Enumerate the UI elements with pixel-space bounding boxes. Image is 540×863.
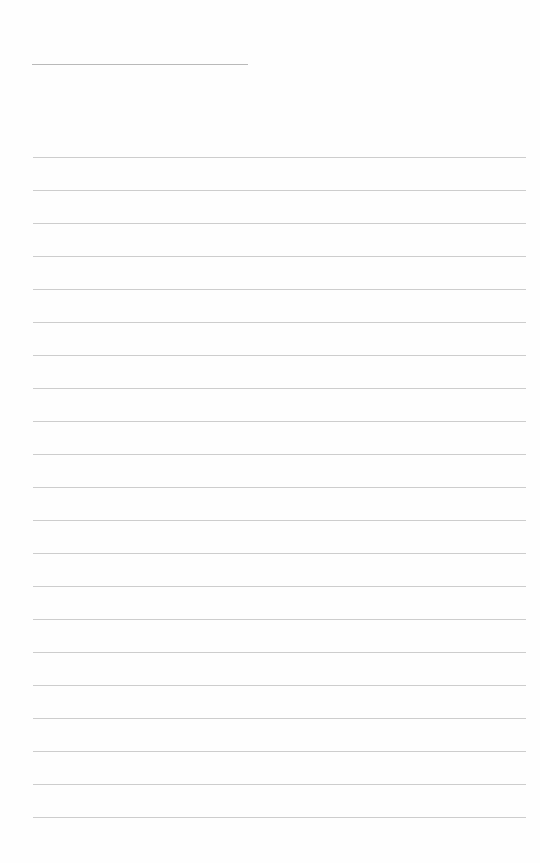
- ruled-line: [33, 520, 526, 521]
- ruled-line: [33, 718, 526, 719]
- lined-paper-page: [0, 0, 540, 863]
- ruled-line: [33, 619, 526, 620]
- ruled-line: [33, 652, 526, 653]
- ruled-line: [33, 454, 526, 455]
- ruled-line: [33, 157, 526, 158]
- ruled-line: [33, 223, 526, 224]
- ruled-line: [33, 355, 526, 356]
- ruled-line: [33, 586, 526, 587]
- ruled-line: [33, 256, 526, 257]
- ruled-line: [33, 322, 526, 323]
- ruled-line: [33, 421, 526, 422]
- ruled-line: [33, 388, 526, 389]
- ruled-line: [33, 553, 526, 554]
- ruled-line: [33, 817, 526, 818]
- ruled-line: [33, 784, 526, 785]
- ruled-line: [33, 289, 526, 290]
- ruled-line: [33, 190, 526, 191]
- ruled-line: [33, 751, 526, 752]
- ruled-line: [33, 685, 526, 686]
- ruled-line: [33, 487, 526, 488]
- title-underline: [32, 64, 248, 65]
